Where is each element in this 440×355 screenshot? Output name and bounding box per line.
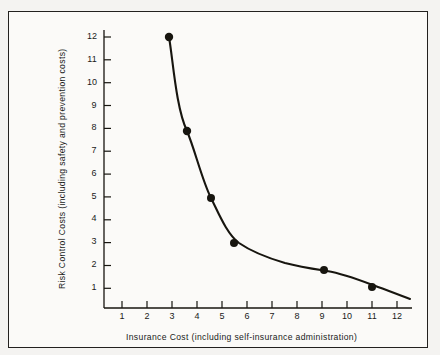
x-tick-label: 2 — [139, 311, 155, 321]
y-tick-label: 10 — [84, 77, 100, 87]
x-tick-label: 4 — [189, 311, 205, 321]
x-tick-label: 8 — [289, 311, 305, 321]
x-tick-label: 9 — [314, 311, 330, 321]
x-tick-label: 12 — [389, 311, 405, 321]
y-axis-title: Risk Control Costs (including safety and… — [57, 49, 67, 290]
y-tick-label: 11 — [84, 54, 100, 64]
data-point — [183, 127, 191, 135]
y-axis-title-wrapper: Risk Control Costs (including safety and… — [51, 49, 69, 289]
data-point — [207, 194, 215, 202]
x-tick-label: 1 — [114, 311, 130, 321]
x-tick-label: 5 — [214, 311, 230, 321]
y-tick-label: 2 — [86, 259, 102, 269]
x-tick-label: 10 — [339, 311, 355, 321]
y-tick-label: 7 — [86, 145, 102, 155]
y-tick-label: 4 — [86, 213, 102, 223]
y-tick-label: 1 — [86, 282, 102, 292]
data-point — [230, 239, 238, 247]
data-point — [368, 283, 376, 291]
x-tick-label: 7 — [264, 311, 280, 321]
y-tick-label: 5 — [86, 191, 102, 201]
y-tick-label: 6 — [86, 168, 102, 178]
y-axis-ticks — [104, 37, 111, 288]
x-axis-ticks — [122, 301, 397, 308]
y-tick-label: 12 — [84, 31, 100, 41]
y-tick-label: 3 — [86, 236, 102, 246]
x-axis-title: Insurance Cost (including self-insurance… — [126, 332, 357, 342]
data-point — [320, 266, 328, 274]
figure-page: 12 11 10 9 8 7 6 5 4 3 2 1 1 2 3 4 5 6 7… — [0, 0, 440, 355]
y-tick-label: 9 — [86, 100, 102, 110]
data-point-markers — [165, 33, 376, 291]
risk-control-cost-curve — [169, 37, 410, 299]
x-tick-label: 6 — [239, 311, 255, 321]
y-tick-label: 8 — [86, 122, 102, 132]
x-tick-label: 11 — [364, 311, 380, 321]
data-point — [165, 33, 173, 41]
x-tick-label: 3 — [164, 311, 180, 321]
